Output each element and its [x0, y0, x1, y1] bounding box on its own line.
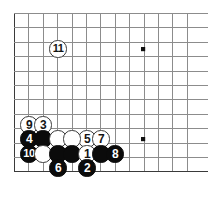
stone-black-2: 2: [78, 159, 95, 176]
star-point-lower: [141, 137, 145, 141]
stone-move-number: 6: [55, 161, 61, 173]
go-board-diagram: 1193574101862: [0, 0, 208, 202]
stone-move-number: 7: [98, 132, 104, 144]
stone-move-number: 1: [84, 147, 90, 159]
stone-white-11: 11: [49, 40, 66, 57]
goban-grid: [0, 0, 208, 202]
stone-move-number: 10: [23, 148, 34, 159]
stone-move-number: 11: [53, 43, 64, 54]
stone-move-number: 3: [40, 118, 46, 130]
stone-move-number: 2: [84, 161, 90, 173]
stone-black-8: 8: [106, 145, 123, 162]
stone-black-6: 6: [49, 159, 66, 176]
stone-move-number: 5: [84, 132, 90, 144]
star-point-upper: [141, 47, 145, 51]
stone-move-number: 9: [26, 118, 32, 130]
stone-move-number: 4: [26, 132, 32, 144]
stone-move-number: 8: [112, 147, 118, 159]
